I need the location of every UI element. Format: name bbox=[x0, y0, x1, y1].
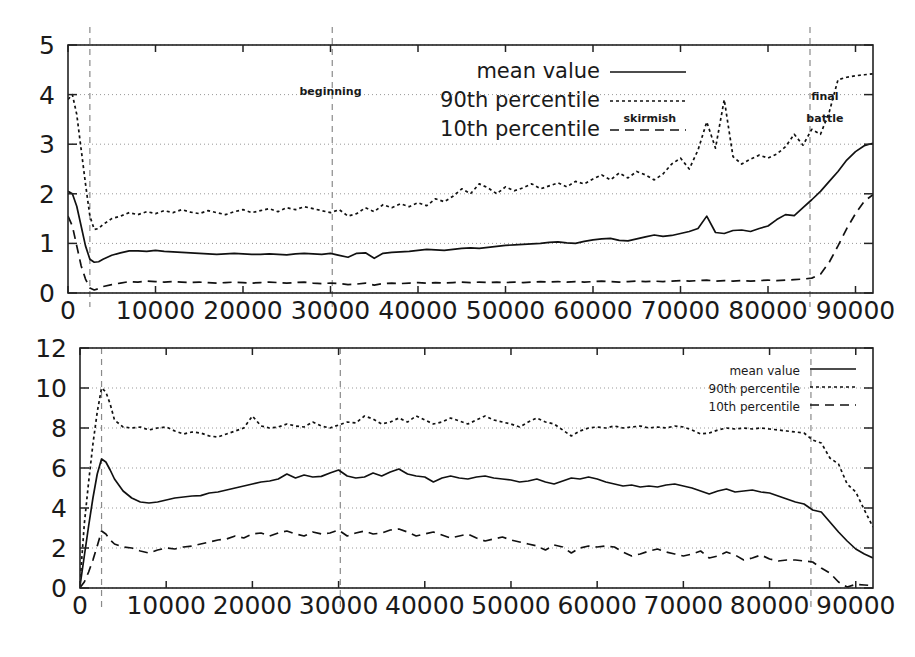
plot-frame-top bbox=[68, 45, 873, 293]
chart-panel-bottom: 0100002000030000400005000060000700008000… bbox=[35, 334, 895, 620]
x-tick-label: 10000 bbox=[116, 296, 196, 325]
annotation-skirmish: skirmish bbox=[624, 112, 677, 125]
x-tick-label: 90000 bbox=[816, 296, 896, 325]
x-tick-label: 70000 bbox=[641, 296, 721, 325]
series-line-10th-percentile bbox=[80, 529, 873, 588]
y-tick-label: 4 bbox=[39, 81, 55, 110]
x-tick-label: 40000 bbox=[385, 591, 465, 620]
legend-label-90th-percentile: 90th percentile bbox=[440, 88, 600, 112]
x-tick-label: 50000 bbox=[471, 591, 551, 620]
x-tick-label: 20000 bbox=[203, 296, 283, 325]
x-tick-label: 0 bbox=[60, 296, 76, 325]
x-tick-label: 20000 bbox=[213, 591, 293, 620]
y-tick-label: 6 bbox=[51, 454, 67, 483]
x-tick-label: 60000 bbox=[557, 591, 637, 620]
gridlines-top bbox=[68, 45, 873, 293]
legend-label-90th-percentile: 90th percentile bbox=[709, 382, 800, 396]
x-tick-label: 60000 bbox=[553, 296, 633, 325]
x-tick-label: 90000 bbox=[816, 591, 896, 620]
event-lines-bottom bbox=[102, 348, 811, 610]
charts-svg: 0100002000030000400005000060000700008000… bbox=[0, 0, 915, 657]
y-tick-label: 3 bbox=[39, 130, 55, 159]
annotation-final-battle: battle bbox=[806, 112, 843, 125]
x-tick-label: 40000 bbox=[378, 296, 458, 325]
series-line-mean-value bbox=[80, 459, 873, 586]
x-tick-label: 80000 bbox=[728, 296, 808, 325]
x-tick-label: 50000 bbox=[466, 296, 546, 325]
y-tick-label: 12 bbox=[35, 334, 67, 363]
figure-container: 0100002000030000400005000060000700008000… bbox=[0, 0, 915, 657]
chart-panel-top: 0100002000030000400005000060000700008000… bbox=[39, 27, 895, 325]
legend-bottom: mean value90th percentile10th percentile bbox=[709, 364, 856, 414]
x-tick-label: 80000 bbox=[730, 591, 810, 620]
y-tick-label: 4 bbox=[51, 494, 67, 523]
y-tick-label: 0 bbox=[39, 279, 55, 308]
x-tick-label: 30000 bbox=[299, 591, 379, 620]
event-lines-top bbox=[90, 27, 810, 307]
y-tick-label: 5 bbox=[39, 31, 55, 60]
x-tick-label: 0 bbox=[72, 591, 88, 620]
annotation-final-battle: final bbox=[811, 90, 838, 103]
legend-top: mean value90th percentile10th percentile bbox=[440, 59, 686, 141]
series-line-90th-percentile bbox=[80, 388, 873, 583]
x-tick-label: 10000 bbox=[126, 591, 206, 620]
legend-label-10th-percentile: 10th percentile bbox=[440, 117, 600, 141]
y-tick-label: 0 bbox=[51, 574, 67, 603]
x-tick-label: 70000 bbox=[644, 591, 724, 620]
legend-label-mean-value: mean value bbox=[729, 364, 800, 378]
series-group-bottom bbox=[80, 388, 873, 588]
y-tick-label: 8 bbox=[51, 414, 67, 443]
y-tick-label: 2 bbox=[39, 180, 55, 209]
series-line-10th-percentile bbox=[68, 195, 873, 290]
y-tick-label: 10 bbox=[35, 374, 67, 403]
y-axis-ticks-top: 012345 bbox=[39, 31, 873, 308]
x-tick-label: 30000 bbox=[291, 296, 371, 325]
legend-label-mean-value: mean value bbox=[476, 59, 600, 83]
y-tick-label: 2 bbox=[51, 534, 67, 563]
series-line-mean-value bbox=[68, 143, 873, 262]
legend-label-10th-percentile: 10th percentile bbox=[709, 400, 800, 414]
annotation-beginning: beginning bbox=[299, 85, 361, 98]
y-tick-label: 1 bbox=[39, 229, 55, 258]
